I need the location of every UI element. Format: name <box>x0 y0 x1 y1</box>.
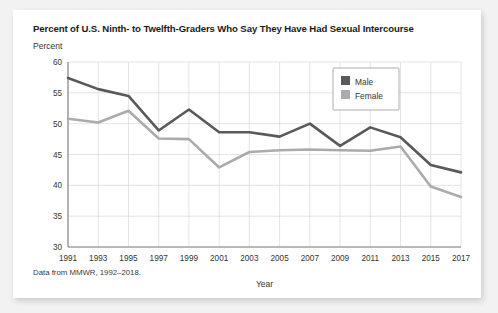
x-tick-label: 2009 <box>331 254 350 263</box>
x-tick-label: 1993 <box>89 254 108 263</box>
x-tick-label: 1999 <box>180 254 199 263</box>
chart-card: Percent of U.S. Ninth- to Twelfth-Grader… <box>13 10 481 298</box>
x-tick-label: 2013 <box>391 254 410 263</box>
gridlines <box>68 62 461 247</box>
x-tick-label: 1995 <box>119 254 138 263</box>
y-tick-label: 35 <box>53 212 63 221</box>
x-tick-label: 2017 <box>452 254 471 263</box>
y-tick-labels: 60555045403530 <box>53 58 63 252</box>
data-series <box>68 78 461 197</box>
x-tick-label: 2003 <box>240 254 259 263</box>
x-tick-labels: 1991199319951997199920012003200520072009… <box>59 254 471 263</box>
line-chart: 60555045403530 1991199319951997199920012… <box>13 10 481 298</box>
y-tick-label: 45 <box>53 151 63 160</box>
legend-box <box>333 68 399 110</box>
x-tick-label: 2011 <box>362 254 380 263</box>
series-line-male <box>68 78 461 172</box>
y-tick-label: 50 <box>53 120 63 129</box>
x-tick-label: 1991 <box>59 254 78 263</box>
x-axis-title: Year <box>256 279 273 289</box>
legend-label-female: Female <box>355 91 383 101</box>
x-tick-label: 2007 <box>301 254 320 263</box>
source-note: Data from MMWR, 1992–2018. <box>33 268 141 277</box>
x-tick-label: 1997 <box>150 254 169 263</box>
y-tick-label: 40 <box>53 181 63 190</box>
legend-swatch-male <box>341 76 350 85</box>
legend-label-male: Male <box>355 77 373 87</box>
x-tick-label: 2015 <box>422 254 441 263</box>
y-tick-label: 60 <box>53 58 63 67</box>
x-tick-label: 2001 <box>210 254 229 263</box>
legend-swatch-female <box>341 90 350 99</box>
y-tick-label: 55 <box>53 89 63 98</box>
x-tick-label: 2005 <box>271 254 290 263</box>
screenshot-root: Percent of U.S. Ninth- to Twelfth-Grader… <box>0 0 498 313</box>
chart-legend: MaleFemale <box>333 68 399 110</box>
y-tick-label: 30 <box>53 243 63 252</box>
